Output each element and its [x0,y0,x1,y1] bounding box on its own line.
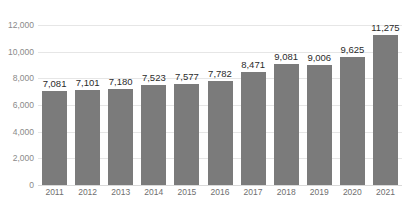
plot-area: 7,0817,1017,1807,5237,5777,7828,4719,081… [38,25,402,185]
bar[interactable] [108,89,133,185]
x-axis: 2011201220132014201520162017201820192020… [38,188,402,208]
bar[interactable] [42,91,67,185]
gridline [38,25,402,26]
y-axis-tick-label: 6,000 [0,101,34,110]
y-axis-tick-label: 2,000 [0,154,34,163]
gridline [38,185,402,186]
bar[interactable] [141,85,166,185]
y-axis-tick-label: 4,000 [0,127,34,136]
bar-chart: 02,0004,0006,0008,00010,00012,000 7,0817… [0,0,409,214]
bar[interactable] [373,35,398,185]
bar[interactable] [307,65,332,185]
bar-value-label: 9,625 [329,45,375,55]
y-axis-tick-label: 10,000 [0,47,34,56]
y-axis: 02,0004,0006,0008,00010,00012,000 [0,0,34,214]
bar-value-label: 11,275 [362,23,408,33]
bar-value-label: 8,471 [230,60,276,70]
bar[interactable] [174,84,199,185]
y-axis-tick-label: 12,000 [0,21,34,30]
x-axis-tick-label: 2021 [365,188,405,197]
bar[interactable] [208,81,233,185]
bar-value-label: 7,782 [197,69,243,79]
bar[interactable] [274,64,299,185]
bar-value-label: 9,006 [296,53,342,63]
y-axis-tick-label: 8,000 [0,74,34,83]
y-axis-tick-label: 0 [0,181,34,190]
bar[interactable] [241,72,266,185]
bar[interactable] [340,57,365,185]
bar[interactable] [75,90,100,185]
